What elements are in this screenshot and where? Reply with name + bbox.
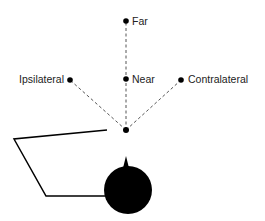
- arm-outline: [14, 130, 107, 196]
- head-icon: [104, 156, 152, 214]
- origin-dot: [123, 127, 129, 133]
- target-dot-contralateral: [178, 77, 184, 83]
- target-rays: [70, 21, 181, 130]
- label-ipsilateral: Ipsilateral: [19, 73, 64, 85]
- label-contralateral: Contralateral: [188, 73, 248, 85]
- ray-ipsilateral: [70, 80, 126, 130]
- target-dot-ipsilateral: [67, 77, 73, 83]
- target-dot-near: [123, 76, 129, 82]
- label-far: Far: [132, 15, 148, 27]
- head-circle: [104, 166, 152, 214]
- label-near: Near: [132, 73, 155, 85]
- ray-contralateral: [126, 80, 181, 130]
- target-dot-far: [123, 18, 129, 24]
- reaching-diagram: Far Near Ipsilateral Contralateral: [0, 0, 265, 221]
